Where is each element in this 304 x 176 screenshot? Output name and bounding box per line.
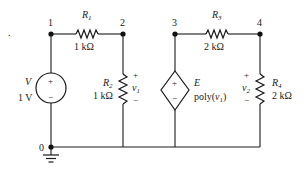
wires — [51, 34, 260, 155]
v1-minus: − — [133, 95, 138, 105]
node-dot — [172, 31, 177, 36]
resistor-r3: R3 2 kΩ — [204, 9, 228, 52]
resistor-icon — [206, 30, 228, 38]
v2-plus: + — [244, 70, 249, 80]
resistor-r1: R1 1 kΩ — [74, 9, 98, 52]
resistor-r2: R2 1 kΩ — [93, 74, 127, 104]
v-name: V — [25, 76, 33, 87]
node-label: 1 — [48, 17, 53, 28]
r2-value: 1 kΩ — [93, 90, 113, 101]
voltage-v2: + v2 − — [242, 70, 250, 105]
voltage-v1: + v1 − — [132, 70, 140, 105]
voltage-source-v: + − V 1 V — [18, 73, 66, 103]
v2-label: v2 — [242, 82, 250, 95]
v-minus: − — [48, 92, 53, 102]
e-minus: − — [172, 93, 177, 103]
node-label: 0 — [39, 142, 44, 153]
r3-name: R3 — [211, 9, 222, 22]
e-plus: + — [172, 78, 177, 88]
resistor-icon — [76, 30, 98, 38]
node-label: 2 — [120, 17, 125, 28]
resistor-icon — [119, 74, 127, 104]
node-dot — [257, 31, 262, 36]
node-label: 3 — [172, 17, 177, 28]
v1-plus: + — [133, 70, 138, 80]
r4-name: R4 — [271, 77, 282, 90]
node-1: 1 — [48, 17, 54, 37]
e-name: E — [193, 77, 200, 88]
node-3: 3 — [172, 17, 178, 37]
node-dot — [48, 144, 53, 149]
v2-minus: − — [244, 95, 249, 105]
v-value: 1 V — [18, 92, 33, 103]
dependent-source-e: + − E poly(v1) — [161, 71, 226, 110]
node-4: 4 — [257, 17, 263, 37]
v1-label: v1 — [132, 82, 140, 95]
r2-name: R2 — [102, 77, 113, 90]
circuit-diagram: . 1 2 — [0, 0, 304, 176]
node-label: 4 — [257, 17, 262, 28]
r1-value: 1 kΩ — [74, 41, 94, 52]
node-dot — [120, 31, 125, 36]
dependent-source-icon — [161, 71, 189, 110]
r1-name: R1 — [81, 9, 92, 22]
stray-mark: . — [8, 27, 11, 38]
node-2: 2 — [120, 17, 126, 37]
r4-value: 2 kΩ — [272, 90, 292, 101]
node-dot — [48, 31, 53, 36]
resistor-icon — [256, 74, 264, 104]
resistor-r4: R4 2 kΩ — [256, 74, 292, 104]
e-value: poly(v1) — [194, 91, 226, 104]
v-plus: + — [48, 76, 53, 86]
ground-icon — [43, 155, 59, 162]
r3-value: 2 kΩ — [204, 41, 224, 52]
